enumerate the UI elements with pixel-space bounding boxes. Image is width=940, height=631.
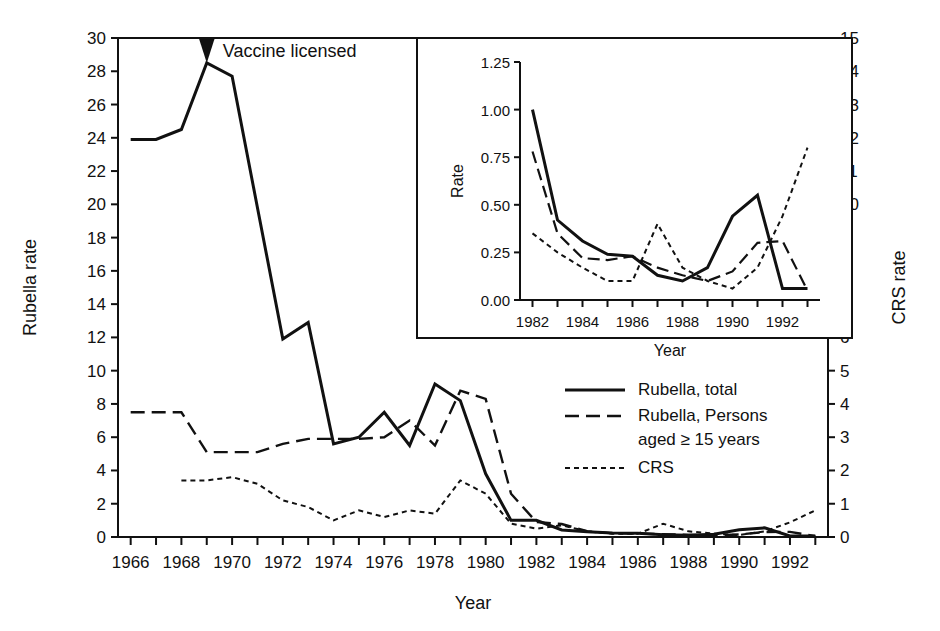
legend-label-rubella-adults-line2: aged ≥ 15 years (638, 430, 760, 449)
y-left-tick-label: 30 (87, 29, 106, 48)
main-y-axis-left-title: Rubella rate (20, 239, 40, 336)
x-tick-label: 1972 (264, 553, 302, 572)
y-right-tick-label: 0 (840, 528, 849, 547)
y-right-tick-label: 4 (840, 395, 849, 414)
y-left-tick-label: 20 (87, 195, 106, 214)
inset-x-tick-label: 1982 (516, 313, 549, 330)
y-left-tick-label: 6 (97, 428, 106, 447)
inset-x-tick-label: 1992 (766, 313, 799, 330)
inset-y-tick-label: 1.00 (481, 102, 510, 119)
y-left-tick-label: 14 (87, 295, 106, 314)
main-y-axis-right-title: CRS rate (889, 250, 909, 324)
y-left-tick-label: 18 (87, 229, 106, 248)
x-tick-label: 1986 (619, 553, 657, 572)
inset-y-tick-label: 1.25 (481, 54, 510, 71)
inset-y-tick-label: 0.25 (481, 244, 510, 261)
inset-y-tick-label: 0.75 (481, 149, 510, 166)
x-tick-label: 1966 (112, 553, 150, 572)
y-left-tick-label: 2 (97, 495, 106, 514)
inset-plot: 0.000.250.500.751.001.25 198219841986198… (417, 38, 852, 359)
vaccine-licensed-label: Vaccine licensed (223, 41, 357, 61)
y-left-tick-label: 22 (87, 162, 106, 181)
main-x-axis-title: Year (455, 593, 491, 613)
inset-x-axis-title: Year (654, 342, 687, 359)
y-left-tick-label: 10 (87, 362, 106, 381)
inset-y-tick-label: 0.50 (481, 197, 510, 214)
inset-y-axis-title: Rate (449, 164, 466, 198)
inset-x-tick-label: 1986 (616, 313, 649, 330)
legend-label-rubella-total: Rubella, total (638, 380, 737, 399)
x-tick-label: 1988 (670, 553, 708, 572)
x-tick-label: 1976 (365, 553, 403, 572)
inset-y-tick-label: 0.00 (481, 292, 510, 309)
legend-label-crs: CRS (638, 458, 674, 477)
x-tick-label: 1968 (162, 553, 200, 572)
y-left-tick-label: 28 (87, 62, 106, 81)
inset-x-tick-label: 1984 (566, 313, 599, 330)
y-right-tick-label: 5 (840, 362, 849, 381)
x-tick-label: 1982 (517, 553, 555, 572)
y-left-tick-label: 0 (97, 528, 106, 547)
y-left-tick-label: 4 (97, 461, 106, 480)
y-left-tick-label: 26 (87, 96, 106, 115)
inset-x-tick-label: 1988 (666, 313, 699, 330)
legend-label-rubella-adults: Rubella, Persons (638, 406, 767, 425)
y-left-tick-label: 8 (97, 395, 106, 414)
x-tick-label: 1980 (467, 553, 505, 572)
x-tick-label: 1974 (315, 553, 353, 572)
x-tick-label: 1992 (771, 553, 809, 572)
x-tick-label: 1970 (213, 553, 251, 572)
y-left-tick-label: 24 (87, 129, 106, 148)
y-left-tick-label: 16 (87, 262, 106, 281)
inset-x-tick-label: 1990 (716, 313, 749, 330)
x-tick-label: 1990 (720, 553, 758, 572)
rubella-crs-figure: 024681012141618202224262830 012345678910… (0, 0, 940, 631)
y-right-tick-label: 1 (840, 495, 849, 514)
y-right-tick-label: 3 (840, 428, 849, 447)
x-tick-label: 1978 (416, 553, 454, 572)
y-left-tick-label: 12 (87, 328, 106, 347)
y-right-tick-label: 2 (840, 461, 849, 480)
x-tick-label: 1984 (568, 553, 606, 572)
